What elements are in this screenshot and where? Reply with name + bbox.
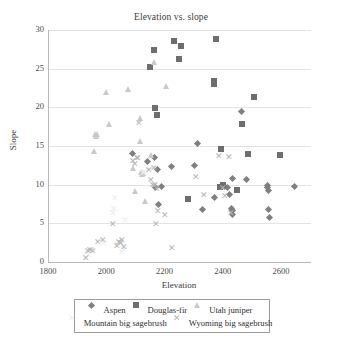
data-point: ✕ xyxy=(139,169,147,177)
legend-entry[interactable]: Douglas-fir xyxy=(136,305,188,315)
data-point: ✕ xyxy=(88,246,96,254)
data-point: ✕ xyxy=(145,166,153,174)
data-point xyxy=(265,187,272,194)
data-point xyxy=(151,154,158,161)
data-point xyxy=(211,78,217,84)
data-point xyxy=(125,86,131,92)
data-point xyxy=(266,214,273,221)
x-tick-label: 1800 xyxy=(28,266,68,276)
legend-row-primary: AspenDouglas-firUtah juniper xyxy=(79,303,265,316)
data-point: ✕ xyxy=(120,243,128,251)
data-point: ✕ xyxy=(86,246,94,254)
legend-row-secondary: ✕Mountain big sagebrush✕Wyoming big sage… xyxy=(79,316,265,329)
data-point: ✕ xyxy=(168,244,176,252)
x-tick-label: 2200 xyxy=(144,266,184,276)
data-point xyxy=(245,151,251,157)
data-point: ✕ xyxy=(192,173,200,181)
data-point: ✕ xyxy=(133,154,141,162)
data-point: ✕ xyxy=(150,164,158,172)
square-marker-icon xyxy=(136,305,145,314)
data-point xyxy=(234,187,240,193)
data-point: ✕ xyxy=(120,246,128,254)
data-point xyxy=(191,162,198,169)
data-point xyxy=(94,131,100,137)
data-point: ✕ xyxy=(99,236,107,244)
data-point: ✕ xyxy=(135,119,143,127)
legend-label: Aspen xyxy=(104,305,126,315)
chart-legend: AspenDouglas-firUtah juniper ✕Mountain b… xyxy=(74,299,270,333)
data-point: ✕ xyxy=(82,254,90,262)
data-point: ✕ xyxy=(129,157,137,165)
y-tick-label: 0 xyxy=(14,257,44,266)
legend-entry[interactable]: ✕Wyoming big sagebrush xyxy=(177,318,273,328)
data-point xyxy=(137,138,143,144)
data-point xyxy=(129,150,136,157)
data-point xyxy=(243,176,250,183)
data-point xyxy=(229,211,236,218)
data-point xyxy=(178,43,184,49)
data-point xyxy=(144,158,151,165)
data-point: ✕ xyxy=(221,192,229,200)
data-point: ✕ xyxy=(118,248,126,256)
data-point xyxy=(211,193,218,200)
data-point xyxy=(138,169,144,175)
data-point xyxy=(228,205,235,212)
y-tick-label: 15 xyxy=(14,141,44,150)
x-tick-label: 2000 xyxy=(86,266,126,276)
data-point xyxy=(265,206,272,213)
data-point: ✕ xyxy=(200,191,208,199)
data-point xyxy=(151,47,157,53)
data-point: ✕ xyxy=(114,241,122,249)
gridline xyxy=(49,185,311,186)
y-tick-label: 20 xyxy=(14,102,44,111)
legend-label: Douglas-fir xyxy=(148,305,188,315)
chart-title: Elevation vs. slope xyxy=(0,12,342,22)
x-axis-tick-labels: 18002000220024002600 xyxy=(48,266,310,278)
data-point xyxy=(238,108,245,115)
data-point xyxy=(139,171,145,177)
data-point: ✕ xyxy=(131,160,139,168)
data-point: ✕ xyxy=(153,185,161,193)
data-point xyxy=(92,131,98,137)
legend-entry[interactable]: Utah juniper xyxy=(197,305,252,315)
data-point: ✕ xyxy=(115,238,123,246)
data-point xyxy=(211,81,217,87)
data-point xyxy=(163,83,169,89)
data-point xyxy=(142,198,148,204)
data-point: ✕ xyxy=(215,152,223,160)
data-point xyxy=(137,115,143,121)
legend-entry[interactable]: ✕Mountain big sagebrush xyxy=(72,318,167,328)
gridline xyxy=(49,223,311,224)
gridline xyxy=(49,146,311,147)
y-tick-label: 25 xyxy=(14,64,44,73)
diamond-marker-icon xyxy=(92,305,101,314)
data-point xyxy=(93,133,99,139)
data-point xyxy=(148,152,154,158)
y-axis-tick-labels: 051015202530 xyxy=(10,30,44,262)
data-point: ✕ xyxy=(100,239,108,247)
x-marker-icon: ✕ xyxy=(177,318,186,327)
legend-label: Wyoming big sagebrush xyxy=(189,318,273,328)
data-point xyxy=(155,201,162,208)
data-point xyxy=(176,56,182,62)
dash-marker-icon: ✕ xyxy=(72,318,81,327)
gridline xyxy=(49,69,311,70)
data-point xyxy=(168,163,175,170)
data-point xyxy=(140,170,146,176)
data-point: ✕ xyxy=(141,168,149,176)
data-point: ✕ xyxy=(227,209,235,217)
data-point xyxy=(103,89,109,95)
y-tick-label: 5 xyxy=(14,218,44,227)
data-point xyxy=(171,38,177,44)
gridline xyxy=(49,107,311,108)
legend-entry[interactable]: Aspen xyxy=(92,305,126,315)
data-point xyxy=(229,207,236,214)
y-tick-label: 30 xyxy=(14,25,44,34)
data-point: ✕ xyxy=(109,209,117,217)
data-point: ✕ xyxy=(94,238,102,246)
legend-label: Utah juniper xyxy=(209,305,252,315)
data-point: ✕ xyxy=(87,246,95,254)
triangle-marker-icon xyxy=(197,305,206,314)
data-point: ✕ xyxy=(89,247,97,255)
data-point xyxy=(154,166,161,173)
